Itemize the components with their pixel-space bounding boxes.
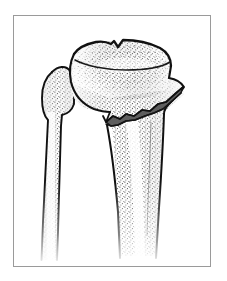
- tibia-group: [64, 36, 190, 266]
- bone-illustration: [14, 16, 212, 268]
- figure-frame: proximal tibia and fibula with displaced…: [13, 15, 211, 267]
- figure-root: proximal tibia and fibula with displaced…: [0, 0, 227, 281]
